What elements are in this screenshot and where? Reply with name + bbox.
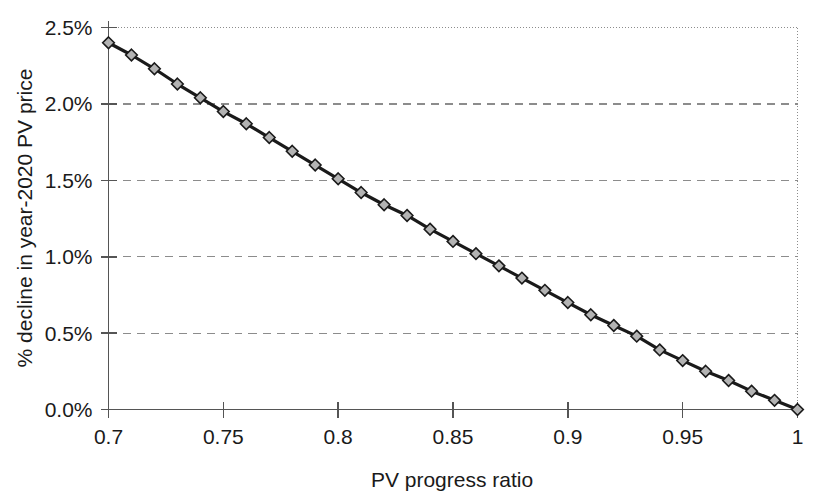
y-tick-label: 0.5%	[45, 322, 93, 345]
y-tick-label: 2.0%	[45, 92, 93, 115]
x-tick-label: 1	[792, 425, 804, 448]
line-chart: 0.70.750.80.850.90.951 0.0%0.5%1.0%1.5%2…	[0, 0, 815, 498]
x-axis-title: PV progress ratio	[371, 468, 533, 491]
y-tick-label: 1.0%	[45, 245, 93, 268]
x-tick-label: 0.9	[553, 425, 582, 448]
x-tick-label: 0.8	[324, 425, 353, 448]
y-tick-label: 2.5%	[45, 16, 93, 39]
chart-container: 0.70.750.80.850.90.951 0.0%0.5%1.0%1.5%2…	[0, 0, 815, 498]
y-axis-title: % decline in year-2020 PV price	[13, 69, 36, 368]
x-tick-label: 0.85	[433, 425, 474, 448]
y-tick-label: 1.5%	[45, 169, 93, 192]
x-tick-label: 0.75	[203, 425, 244, 448]
x-tick-label: 0.7	[94, 425, 123, 448]
x-tick-label: 0.95	[662, 425, 703, 448]
y-tick-label: 0.0%	[45, 398, 93, 421]
chart-background	[0, 0, 815, 498]
